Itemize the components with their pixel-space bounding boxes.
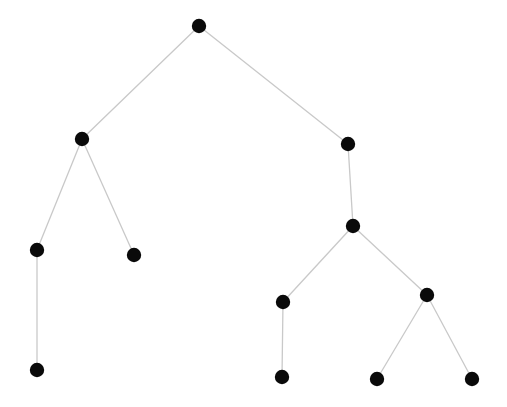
graph-node[interactable] <box>75 132 89 146</box>
graph-node[interactable] <box>30 363 44 377</box>
graph-node[interactable] <box>275 370 289 384</box>
graph-node[interactable] <box>420 288 434 302</box>
graph-node[interactable] <box>346 219 360 233</box>
graph-edge <box>37 139 82 250</box>
graph-edge <box>283 226 353 302</box>
graph-edge <box>348 144 353 226</box>
graph-edge <box>199 26 348 144</box>
graph-node[interactable] <box>465 372 479 386</box>
graph-edge <box>82 139 134 255</box>
graph-edge <box>427 295 472 379</box>
graph-edge <box>82 26 199 139</box>
graph-node[interactable] <box>370 372 384 386</box>
graph-canvas <box>0 0 507 407</box>
graph-node[interactable] <box>341 137 355 151</box>
graph-node[interactable] <box>30 243 44 257</box>
graph-edge <box>353 226 427 295</box>
graph-edge <box>377 295 427 379</box>
graph-node[interactable] <box>276 295 290 309</box>
graph-node[interactable] <box>127 248 141 262</box>
graph-node[interactable] <box>192 19 206 33</box>
edge-layer <box>37 26 472 379</box>
graph-diagram <box>0 0 507 407</box>
graph-edge <box>282 302 283 377</box>
node-layer <box>30 19 479 386</box>
